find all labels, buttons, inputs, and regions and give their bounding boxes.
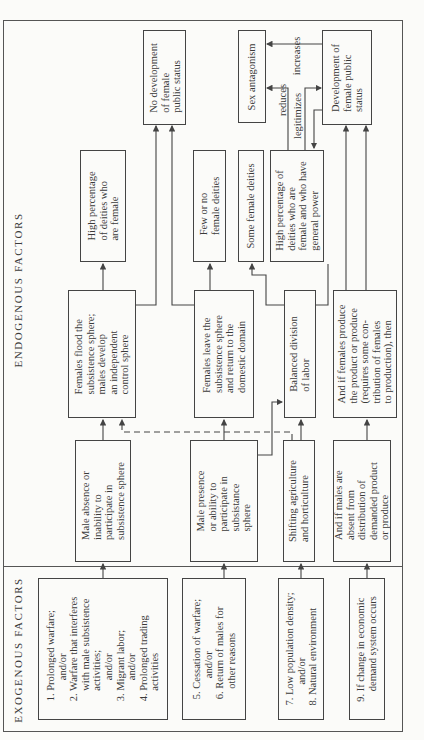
exogenous-box-economic: 9. If change in economic demand system o… [349, 578, 385, 720]
condition-male-absence-text: Male absence or inability to participate… [80, 462, 126, 540]
deities-some-text: Some female deities [245, 163, 257, 248]
deities-few-or-none-text: Few or no female deities [198, 177, 221, 236]
condition-male-presence: Male presence or ability to participate … [190, 440, 258, 562]
condition-male-absence: Male absence or inability to participate… [75, 440, 131, 562]
outcome-females-produce: And if females produce the product or pr… [333, 290, 397, 418]
exogenous-box-warfare: 1. Prolonged warfare; and/or 2. Warfare … [38, 578, 168, 720]
condition-males-absent-text: And if males are absent from distributio… [333, 462, 391, 540]
edge-label-legitimizes: legitimizes [292, 93, 303, 139]
exogenous-box-cessation: 5. Cessation of warfare; and/or 6. Retur… [182, 578, 246, 720]
status-development-text: Development of female public status [330, 44, 365, 112]
outcome-balanced-division-text: Balanced division of labor [288, 316, 311, 392]
condition-male-presence-text: Male presence or ability to participate … [195, 471, 253, 532]
outcome-females-flood-text: Females flood the subsistence sphere; ma… [73, 314, 131, 395]
status-sex-antagonism-text: Sex antagonism [246, 43, 258, 110]
outcome-females-produce-text: And if females produce the product or pr… [336, 305, 394, 404]
edge-label-increases: increases [291, 37, 302, 75]
status-sex-antagonism: Sex antagonism [238, 30, 266, 123]
condition-males-absent: And if males are absent from distributio… [333, 440, 391, 562]
deities-high-percentage-text: High percentage of deities who are femal… [86, 171, 121, 240]
edge-label-reduces: reduces [277, 84, 288, 116]
exogenous-box-population: 7. Low population density; and/or 8. Nat… [278, 578, 324, 720]
outcome-females-leave: Females leave the subsistence sphere and… [194, 290, 254, 418]
condition-shifting-agriculture: Shifting agriculture and horticulture [283, 440, 315, 562]
exogenous-box-population-text: 7. Low population density; and/or 8. Nat… [284, 592, 319, 705]
status-no-development: No development of female public status [143, 30, 186, 125]
outcome-females-flood: Females flood the subsistence sphere; ma… [68, 290, 136, 418]
condition-shifting-agriculture-text: Shifting agriculture and horticulture [287, 460, 310, 542]
outcome-females-leave-text: Females leave the subsistence sphere and… [201, 315, 247, 393]
exogenous-box-economic-text: 9. If change in economic demand system o… [355, 596, 378, 702]
deities-some: Some female deities [238, 150, 264, 262]
exogenous-box-cessation-text: 5. Cessation of warfare; and/or 6. Retur… [191, 599, 237, 699]
status-development: Development of female public status [322, 30, 372, 125]
outcome-balanced-division: Balanced division of labor [284, 290, 316, 418]
deities-high-percentage: High percentage of deities who are femal… [80, 150, 126, 262]
exogenous-box-warfare-text: 1. Prolonged warfare; and/or 2. Warfare … [45, 597, 161, 702]
deities-high-percentage-power: High percentage of deities who are femal… [270, 150, 324, 262]
deities-high-percentage-power-text: High percentage of deities who are femal… [274, 161, 320, 251]
deities-few-or-none: Few or no female deities [193, 150, 226, 262]
status-no-development-text: No development of female public status [147, 43, 182, 113]
